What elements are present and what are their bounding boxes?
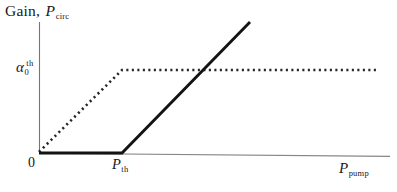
x-axis-title: Ppump xyxy=(339,161,368,176)
x-axis-title-subscript: pump xyxy=(349,168,369,178)
y-axis-title-prefix: Gain, xyxy=(5,2,44,19)
x-axis-title-symbol: P xyxy=(339,160,348,176)
plot-canvas xyxy=(0,0,397,192)
x-tick-label-p-threshold: Pth xyxy=(112,157,128,172)
y-axis-title: Gain, Pcirc xyxy=(5,3,69,19)
y-tick-label-alpha-th: α0th xyxy=(16,60,35,75)
alpha-subscript: 0 xyxy=(24,67,28,77)
gain-vs-pump-figure: Gain, Pcirc α0th 0 Pth Ppump xyxy=(0,0,397,192)
p-threshold-symbol: P xyxy=(112,156,121,172)
alpha-superscript: th xyxy=(26,58,33,68)
y-axis-title-symbol: P xyxy=(44,2,55,19)
alpha-symbol: α xyxy=(16,59,24,75)
origin-label: 0 xyxy=(28,156,35,170)
y-axis-title-subscript: circ xyxy=(56,11,70,21)
circulating-power-curve-solid xyxy=(39,22,250,153)
p-threshold-subscript: th xyxy=(121,164,128,174)
gain-curve-dotted xyxy=(39,70,378,152)
